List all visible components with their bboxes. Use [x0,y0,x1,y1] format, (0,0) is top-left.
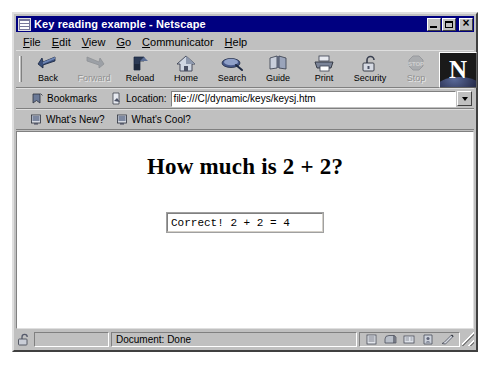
menu-label-view: iew [89,36,106,48]
title-bar[interactable]: Key reading example - Netscape [16,16,474,32]
component-bar [359,332,460,347]
print-button-label: Print [315,73,334,83]
answer-input-value: Correct! 2 + 2 = 4 [171,217,290,229]
list-panel-icon[interactable] [364,333,379,346]
reload-icon [128,54,152,73]
back-arrow-icon [36,54,60,73]
bookmark-whats-cool[interactable]: What's Cool? [111,113,197,126]
unlocked-padlock-icon[interactable] [16,332,33,347]
status-bar: Document: Done [16,330,474,348]
navigation-toolbar-grip[interactable] [16,51,25,87]
search-button-label: Search [218,73,247,83]
guide-icon [266,54,290,73]
composer-icon[interactable] [440,333,455,346]
guide-button-label: Guide [266,73,290,83]
forward-arrow-icon [82,54,106,73]
home-button[interactable]: Home [163,52,209,86]
menu-item-edit[interactable]: Edit [47,35,77,49]
security-button-label: Security [354,73,387,83]
menu-label-help: elp [233,36,248,48]
location-toolbar: Bookmarks Location: file:///C|/dynamic/k… [16,88,474,109]
answer-input[interactable]: Correct! 2 + 2 = 4 [167,213,323,232]
forward-button[interactable]: Forward [71,52,117,86]
resize-grip-icon[interactable] [462,332,474,346]
stop-button-label: Stop [407,73,426,83]
back-button[interactable]: Back [25,52,71,86]
location-button[interactable]: Location: [101,92,171,105]
menu-item-go[interactable]: Go [111,35,137,49]
reload-button[interactable]: Reload [117,52,163,86]
reload-button-label: Reload [126,73,155,83]
menu-item-file[interactable]: File [18,35,47,49]
security-lock-icon [358,54,382,73]
location-dropdown-button[interactable] [457,91,472,106]
window-title: Key reading example - Netscape [34,18,426,30]
bookmark-whats-new-label: What's New? [46,114,105,125]
stop-sign-icon: STOP [404,54,428,73]
forward-button-label: Forward [77,73,110,83]
bookmark-whats-cool-label: What's Cool? [132,114,191,125]
status-text: Document: Done [116,334,191,345]
netscape-logo[interactable]: N [439,52,477,88]
search-icon [220,54,244,73]
netscape-logo-letter: N [449,57,467,82]
menu-label-file: ile [30,36,41,48]
stop-button[interactable]: STOP Stop [393,52,439,86]
print-icon [312,54,336,73]
mailbox-icon[interactable] [383,333,398,346]
address-book-icon[interactable] [421,333,436,346]
newsgroup-icon[interactable] [402,333,417,346]
home-button-label: Home [174,73,198,83]
location-url-text: file:///C|/dynamic/keys/keysj.htm [174,93,316,104]
answer-row: Correct! 2 + 2 = 4 [17,213,473,232]
svg-text:STOP: STOP [408,61,424,67]
menu-item-help[interactable]: Help [220,35,254,49]
bookmark-icon [30,92,44,105]
page-canvas: How much is 2 + 2? Correct! 2 + 2 = 4 [16,131,474,329]
location-input[interactable]: file:///C|/dynamic/keys/keysj.htm [171,91,456,107]
bookmark-whats-new[interactable]: What's New? [25,113,111,126]
status-message-area: Document: Done [111,332,357,347]
navigation-toolbar: Back Forward Reload [16,50,474,88]
search-button[interactable]: Search [209,52,255,86]
location-label: Location: [126,93,167,104]
print-button[interactable]: Print [301,52,347,86]
chevron-down-icon [462,97,468,101]
bookmarks-button[interactable]: Bookmarks [25,92,101,105]
menu-label-edit: dit [59,36,71,48]
bookmark-page-icon [29,113,43,126]
back-button-label: Back [38,73,58,83]
netscape-document-icon [18,18,31,31]
progress-meter [34,332,109,347]
page-pointer-icon [109,92,123,105]
menu-item-view[interactable]: View [77,35,112,49]
close-button[interactable] [459,18,473,31]
page-title: How much is 2 + 2? [17,154,473,180]
content-area: How much is 2 + 2? Correct! 2 + 2 = 4 [16,131,474,329]
maximize-button[interactable] [442,18,456,31]
home-icon [174,54,198,73]
menu-label-communicator: ommunicator [150,36,214,48]
menu-item-communicator[interactable]: Communicator [137,35,220,49]
personal-toolbar: What's New? What's Cool? [16,109,474,130]
security-button[interactable]: Security [347,52,393,86]
minimize-button[interactable] [427,18,441,31]
browser-window: Key reading example - Netscape File Edit… [12,12,478,352]
bookmark-page-icon [115,113,129,126]
menu-label-go: o [125,36,131,48]
guide-button[interactable]: Guide [255,52,301,86]
menu-bar: File Edit View Go Communicator Help [16,33,474,50]
bookmarks-label: Bookmarks [47,93,97,104]
